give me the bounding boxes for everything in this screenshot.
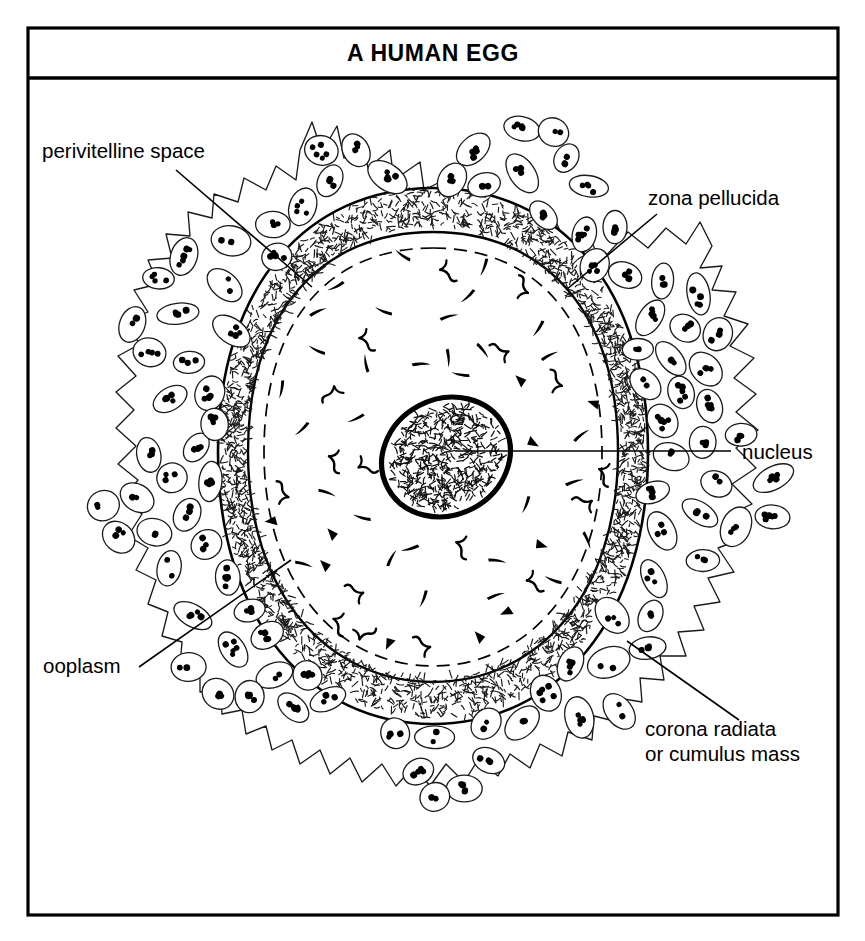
corona-cell [256,211,291,238]
figure-root: A HUMAN EGG perivitelline spacezona pell… [0,0,865,941]
corona-cell [446,775,482,802]
label-text-corona-radiata: corona radiata [645,717,777,740]
label-text-nucleus: nucleus [742,440,813,463]
human-egg-diagram: A HUMAN EGG perivitelline spacezona pell… [0,0,865,941]
corona-cell [689,426,717,459]
label-text-zona-pellucida: zona pellucida [648,186,780,209]
label-text-ooplasm: ooplasm [43,654,121,677]
label-text-perivitelline-space: perivitelline space [42,139,205,162]
page-title: A HUMAN EGG [347,40,519,66]
label-text-corona-radiata-line2: or cumulus mass [645,742,800,765]
corona-cell [603,210,627,243]
corona-cell [415,726,455,749]
